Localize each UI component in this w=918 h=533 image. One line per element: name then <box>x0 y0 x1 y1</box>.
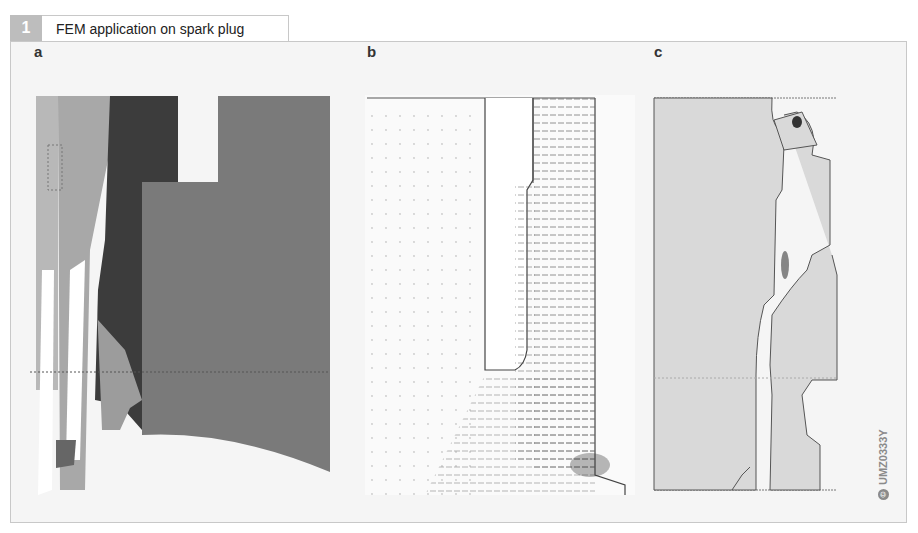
figure-title: FEM application on spark plug <box>42 15 289 41</box>
panel-b-label: b <box>367 43 376 60</box>
panel-a-label: a <box>34 43 42 60</box>
panel-c-label: c <box>654 43 662 60</box>
panel-b-vector-field-plot <box>365 95 635 495</box>
panel-a-fem-region-map <box>30 90 335 500</box>
image-code: © UMZ0333Y <box>877 429 889 500</box>
copyright-icon: © <box>878 489 889 500</box>
figure-header: 1 FEM application on spark plug <box>10 15 289 41</box>
image-code-text: UMZ0333Y <box>877 429 889 485</box>
figure-number-badge: 1 <box>10 15 42 41</box>
panel-c-contour-plot <box>652 95 842 495</box>
